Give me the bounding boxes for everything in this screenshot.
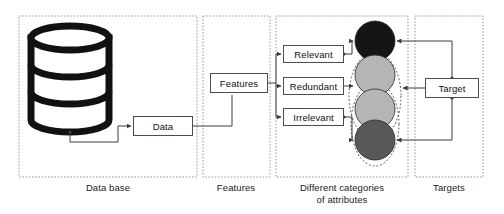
region-label-features: Features [196,182,276,194]
region-border-features [203,16,270,177]
connector-junctions [68,52,453,133]
junction-cylinder [68,130,71,133]
connector-target-to-node4 [397,98,452,140]
region-label-database: Data base [19,182,197,194]
connector-target-to-node1 [397,41,452,78]
attribute-node-4 [355,120,395,160]
target-box: Target [425,78,479,98]
irrelevant-box: Irrelevant [283,108,344,126]
connector-relevant-to-node1 [344,41,353,54]
connector-data-to-features [193,95,232,126]
relevant-box: Relevant [283,45,344,63]
diagram-canvas: Data Features Relevant Redundant Irrelev… [0,0,504,214]
region-label-targets: Targets [415,182,483,194]
features-box: Features [210,73,268,93]
redundant-box: Redundant [283,77,344,95]
cylinder-top [31,26,109,50]
database-cylinder [31,26,109,132]
region-label-categories: Different categories of attributes [276,182,408,206]
data-box: Data [133,116,193,136]
